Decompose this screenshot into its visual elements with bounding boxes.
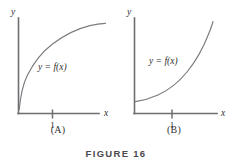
panel-b: y x 1 y = f(x) (B) (116, 0, 232, 145)
panel-a-curve-label: y = f(x) (37, 62, 67, 73)
panel-b-y-axis-label: y (126, 7, 132, 17)
panel-a-y-axis-label: y (10, 7, 16, 17)
panel-b-curve-label: y = f(x) (148, 56, 178, 67)
figure-16: y x 1 y = f(x) (A) y (0, 0, 232, 168)
panel-b-caption: (B) (116, 124, 232, 135)
panel-a-x-axis-label: x (103, 108, 109, 118)
figure-caption: FIGURE 16 (0, 148, 232, 159)
panel-b-x-axis-label: x (220, 108, 226, 118)
panel-a: y x 1 y = f(x) (A) (0, 0, 116, 145)
panel-a-caption: (A) (0, 124, 116, 135)
figure-panels: y x 1 y = f(x) (A) y (0, 0, 232, 145)
